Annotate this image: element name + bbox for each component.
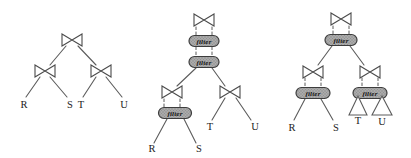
relation-label: R xyxy=(20,99,27,110)
relation-label: U xyxy=(251,121,259,132)
filter-node-label: filter xyxy=(362,90,377,98)
tree-edge xyxy=(26,77,40,97)
filter-node-label: filter xyxy=(167,110,182,118)
join-operator-icon xyxy=(35,65,55,77)
join-operator-icon xyxy=(331,13,351,25)
tree-edge xyxy=(350,46,364,65)
relation-label: T xyxy=(78,99,85,110)
relation-label: T xyxy=(355,115,362,126)
filter-node-label: filter xyxy=(305,90,320,98)
tree-edge xyxy=(321,99,333,120)
tree-edge xyxy=(177,68,196,86)
tree-edge xyxy=(236,98,251,120)
tree-edge xyxy=(318,46,332,65)
relation-label: S xyxy=(333,122,339,133)
tree-plan-2: filterfilterfilterRSTU xyxy=(148,14,259,154)
join-operator-icon xyxy=(360,66,380,78)
relation-label: U xyxy=(120,99,128,110)
query-plan-figure: RSTUfilterfilterfilterRSTUfilterfilterfi… xyxy=(0,0,411,158)
relation-label: U xyxy=(378,116,386,127)
tree-edge xyxy=(50,77,67,97)
join-operator-icon xyxy=(303,66,323,78)
join-operator-icon xyxy=(162,86,182,98)
filter-node-label: filter xyxy=(333,37,348,45)
tree-edge xyxy=(212,98,225,120)
diagram-canvas: RSTUfilterfilterfilterRSTUfilterfilterfi… xyxy=(0,0,411,158)
tree-plan-3: filterfilterfilterTURS xyxy=(288,13,392,133)
join-operator-icon xyxy=(91,65,111,77)
tree-edge xyxy=(154,119,167,143)
tree-edge xyxy=(78,46,96,65)
relation-label: T xyxy=(207,121,214,132)
relation-label: S xyxy=(196,143,202,154)
relation-label: R xyxy=(288,122,295,133)
filter-node-label: filter xyxy=(196,59,211,67)
relation-label: R xyxy=(148,143,155,154)
join-operator-icon xyxy=(62,34,82,46)
tree-edge xyxy=(83,77,96,97)
tree-edge xyxy=(184,119,196,143)
tree-edge xyxy=(50,46,66,65)
filter-node-label: filter xyxy=(196,38,211,46)
join-operator-icon xyxy=(194,14,214,26)
tree-edge xyxy=(106,77,122,97)
tree-edge xyxy=(294,99,305,120)
relation-label: S xyxy=(67,99,73,110)
tree-edge xyxy=(212,68,225,86)
join-operator-icon xyxy=(220,86,240,98)
tree-plan-1: RSTU xyxy=(20,34,128,110)
